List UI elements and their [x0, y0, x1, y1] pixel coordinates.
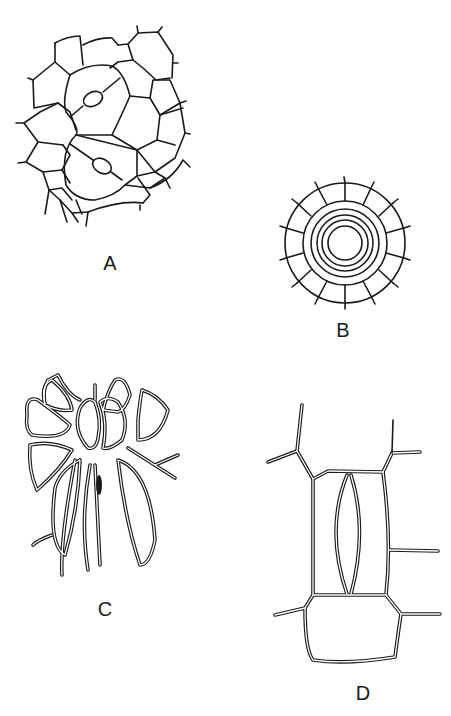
panel-d-label: D [356, 682, 370, 704]
panel-a-drawing [16, 26, 190, 226]
stomata-figure: A B [0, 0, 451, 716]
panel-d-drawing [268, 405, 440, 662]
panel-c-label: C [98, 598, 112, 620]
panel-a-label: A [103, 252, 117, 274]
panel-c-drawing [27, 375, 178, 575]
panel-b-drawing [280, 177, 410, 309]
panel-b-label: B [336, 319, 349, 341]
